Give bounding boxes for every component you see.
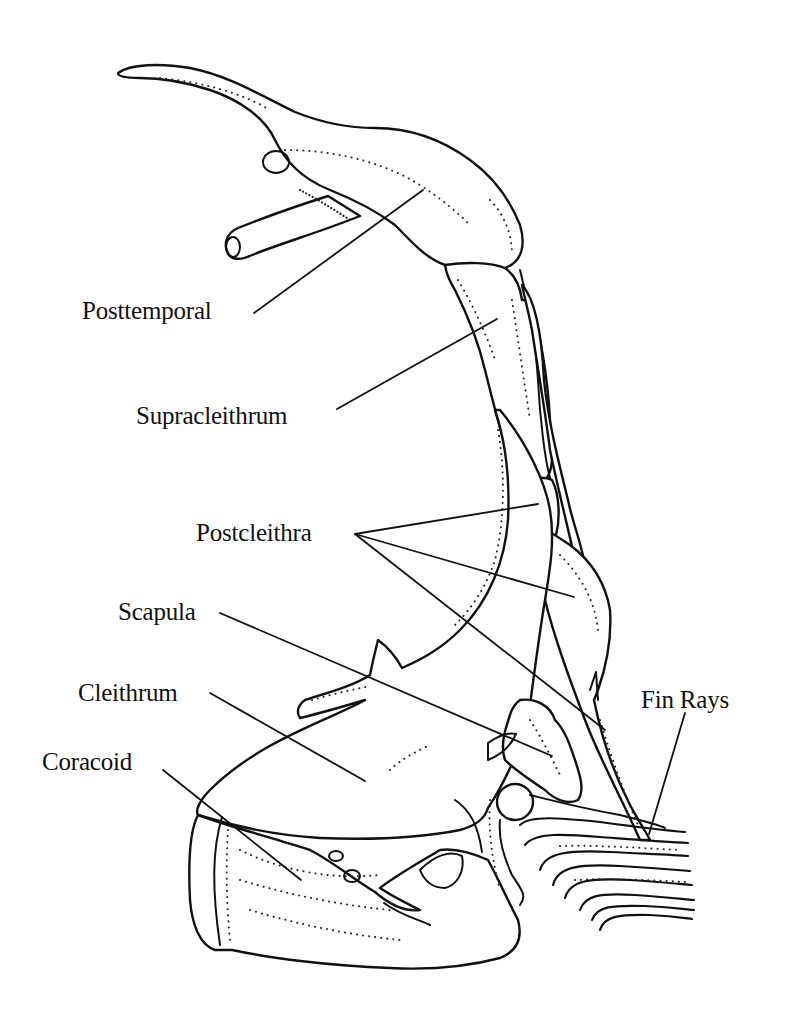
label-cleithrum: Cleithrum [78, 680, 178, 705]
label-coracoid: Coracoid [42, 749, 132, 774]
anatomical-figure: Posttemporal Supracleithrum Postcleithra… [0, 0, 794, 1026]
label-supracleithrum: Supracleithrum [136, 403, 287, 428]
label-postcleithra: Postcleithra [196, 520, 312, 545]
label-scapula: Scapula [118, 599, 196, 624]
label-fin-rays: Fin Rays [641, 687, 729, 712]
leader-supracleithrum [337, 319, 497, 409]
label-posttemporal: Posttemporal [82, 298, 212, 323]
leader-fin-rays [649, 713, 685, 834]
posttemporal-bone [118, 65, 523, 270]
fin-rays [520, 818, 694, 930]
cleithrum-bone [197, 410, 552, 852]
pectoral-girdle-drawing [0, 0, 794, 1026]
radials [489, 784, 665, 905]
